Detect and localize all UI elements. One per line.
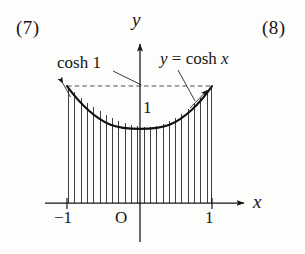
curve-equation-label: y = cosh x xyxy=(160,50,229,67)
curve-equation-lhs: y xyxy=(160,49,168,68)
curve-equation-function: cosh xyxy=(186,49,217,68)
x-tick-label-negative-one: −1 xyxy=(54,209,72,226)
y-tick-label-one: 1 xyxy=(143,99,152,116)
cosh-one-leader-line xyxy=(113,71,142,85)
x-axis-label: x xyxy=(253,192,261,211)
curve-equation-variable: x xyxy=(217,49,229,68)
x-tick-label-positive-one: 1 xyxy=(205,209,214,226)
item-number-left: (7) xyxy=(16,18,40,37)
curve-equation-leader-arrow xyxy=(190,90,208,108)
cosh-one-label: cosh 1 xyxy=(57,54,101,71)
cosh-figure-svg xyxy=(0,0,305,254)
curve-equation-leader-line xyxy=(178,70,195,101)
origin-label: O xyxy=(115,209,127,226)
item-number-right: (8) xyxy=(262,18,286,37)
curve-equation-operator: = xyxy=(168,49,186,68)
y-axis-label: y xyxy=(132,10,140,29)
figure-container: (7) (8) y x cosh 1 y = cosh x 1 −1 O 1 xyxy=(0,0,305,254)
